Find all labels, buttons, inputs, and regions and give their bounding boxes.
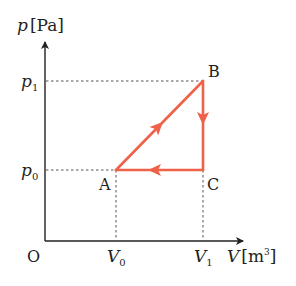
direction-arrows [148, 112, 209, 176]
point-b-label: B [208, 62, 220, 81]
point-c-label: C [207, 175, 219, 194]
point-a-label: A [98, 175, 111, 194]
x-axis-label: V[m3] [227, 246, 276, 266]
v0-label: V0 [107, 246, 126, 268]
p0-label: p0 [21, 160, 38, 182]
p1-label: p1 [21, 71, 38, 93]
y-axis-unit: [Pa] [30, 15, 64, 35]
x-axis-unit: [m [241, 246, 264, 266]
origin-label: O [27, 247, 40, 266]
y-axis-var: p [17, 15, 28, 35]
x-axis-var: V [227, 246, 241, 266]
pv-diagram: p[Pa] p1 p0 O V0 V1 V[m3] A B C [0, 0, 296, 286]
v1-label: V1 [194, 246, 213, 268]
y-axis-label: p[Pa] [17, 15, 64, 35]
